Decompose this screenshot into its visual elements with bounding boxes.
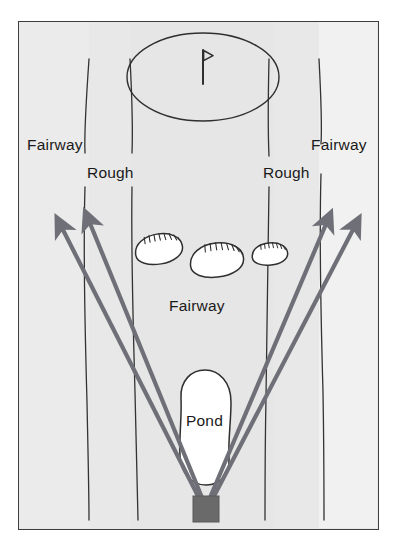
boundary-right-inner-upper [268,59,269,156]
turf-band-left-outer [19,22,89,528]
label-pond: Pond [186,412,223,430]
golf-hole-diagram-canvas [19,22,377,528]
tee-box [193,496,219,522]
turf-band-right-rough [273,22,319,528]
label-fairway-center: Fairway [169,297,225,315]
label-rough-right: Rough [263,164,310,182]
page-root: Fairway Rough Rough Fairway Fairway Pond [0,0,396,549]
label-fairway-left: Fairway [27,136,83,154]
label-rough-left: Rough [87,164,134,182]
golf-hole-diagram-frame: Fairway Rough Rough Fairway Fairway Pond [18,21,379,530]
label-fairway-right: Fairway [311,136,367,154]
